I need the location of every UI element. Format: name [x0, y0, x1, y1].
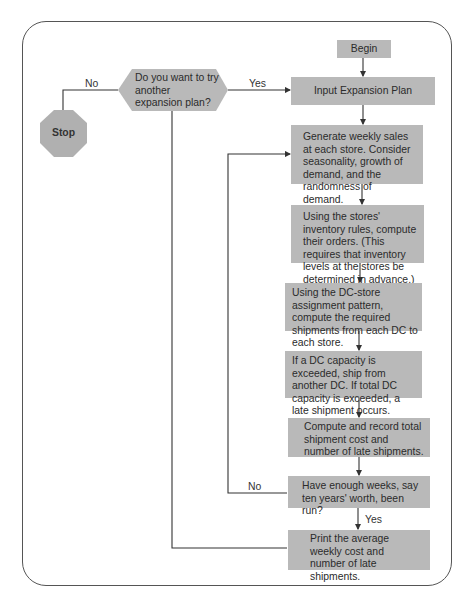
- enough-weeks-node: Have enough weeks, say ten years' worth,…: [288, 476, 430, 508]
- stop-label: Stop: [40, 127, 87, 140]
- enough-weeks-no-label: No: [248, 481, 261, 492]
- try-another-no-label: No: [85, 78, 98, 89]
- record-cost-node: Compute and record total shipment cost a…: [288, 418, 430, 457]
- enough-weeks-yes-label: Yes: [365, 514, 382, 525]
- begin-label: Begin: [351, 43, 378, 56]
- capacity-check-node: If a DC capacity is exceeded, ship from …: [285, 351, 422, 398]
- try-another-yes-label: Yes: [249, 78, 266, 89]
- compute-orders-label: Using the stores' inventory rules, compu…: [303, 211, 416, 285]
- capacity-check-label: If a DC capacity is exceeded, ship from …: [292, 355, 400, 416]
- generate-sales-node: Generate weekly sales at each store. Con…: [291, 125, 423, 184]
- compute-shipments-node: Using the DC-store assignment pattern, c…: [285, 283, 422, 331]
- print-results-node: Print the average weekly cost and number…: [288, 530, 430, 570]
- begin-node: Begin: [337, 40, 391, 58]
- try-another-label: Do you want to try another expansion pla…: [135, 72, 219, 110]
- compute-orders-node: Using the stores' inventory rules, compu…: [291, 205, 424, 263]
- input-plan-label: Input Expansion Plan: [314, 85, 412, 98]
- input-plan-node: Input Expansion Plan: [291, 77, 435, 105]
- record-cost-label: Compute and record total shipment cost a…: [304, 421, 424, 457]
